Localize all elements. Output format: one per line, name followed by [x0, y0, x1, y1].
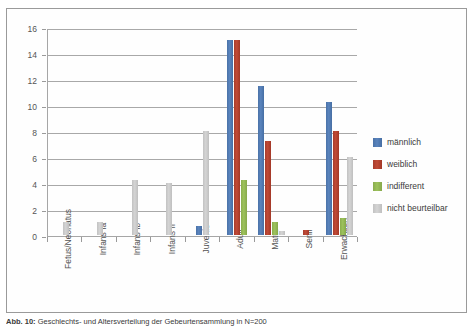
y-axis-tick-mark [42, 81, 46, 82]
bar[interactable] [203, 131, 209, 235]
x-axis-label-cell: Erwachsen [323, 237, 357, 307]
chart-legend: männlichweiblichindifferentnicht beurtei… [373, 131, 465, 219]
x-axis-labels: Fetus/NeonatusInfans IaInfans IbInfans I… [47, 237, 357, 307]
bar[interactable] [258, 86, 264, 236]
plot-area [47, 29, 357, 237]
legend-swatch-icon [373, 138, 382, 147]
y-axis-tick-label: 0 [15, 233, 37, 242]
y-axis-tick-mark [42, 55, 46, 56]
legend-swatch-icon [373, 182, 382, 191]
bar-group [289, 29, 323, 235]
legend-swatch-icon [373, 160, 382, 169]
x-axis-label-cell: Infans Ib [116, 237, 150, 307]
y-axis-tick-label: 4 [15, 181, 37, 190]
bar-group [220, 29, 254, 235]
bar[interactable] [234, 40, 240, 235]
y-axis-tick-mark [42, 29, 46, 30]
legend-label: männlich [387, 137, 421, 147]
y-axis-tick-mark [42, 185, 46, 186]
x-axis-label-cell: Adult [219, 237, 253, 307]
figure-container: 0246810121416 Fetus/NeonatusInfans IaInf… [0, 0, 474, 330]
x-axis-label-cell: Infans II [150, 237, 184, 307]
y-axis-tick-label: 12 [15, 77, 37, 86]
bar-group [323, 29, 357, 235]
bar-group [83, 29, 117, 235]
y-axis-tick-mark [42, 107, 46, 108]
y-axis-tick-mark [42, 211, 46, 212]
x-axis-tick-label: Fetus/Neonatus [64, 209, 73, 269]
bar-group [117, 29, 151, 235]
bar[interactable] [132, 180, 138, 235]
y-axis-tick-mark [42, 237, 46, 238]
bar-group [152, 29, 186, 235]
y-axis-tick-label: 8 [15, 129, 37, 138]
bar[interactable] [347, 157, 353, 235]
legend-label: weiblich [387, 159, 417, 169]
bar[interactable] [279, 231, 285, 235]
legend-item[interactable]: weiblich [373, 153, 465, 175]
x-axis-label-cell: Juvenis [185, 237, 219, 307]
bar-group [254, 29, 288, 235]
legend-label: nicht beurteilbar [387, 203, 447, 213]
bar[interactable] [272, 222, 278, 235]
legend-swatch-icon [373, 204, 382, 213]
bar-group [186, 29, 220, 235]
legend-item[interactable]: indifferent [373, 175, 465, 197]
y-axis-tick-mark [42, 133, 46, 134]
y-axis-tick-label: 2 [15, 207, 37, 216]
bar[interactable] [340, 218, 346, 235]
bar[interactable] [241, 180, 247, 235]
bar[interactable] [265, 141, 271, 235]
bar[interactable] [97, 222, 103, 235]
y-axis-tick-label: 6 [15, 155, 37, 164]
bar[interactable] [196, 226, 202, 235]
bar[interactable] [333, 131, 339, 235]
x-axis-label-cell: Infans Ia [81, 237, 115, 307]
figure-number: Abb. 10: [6, 318, 36, 326]
x-axis-label-cell: Fetus/Neonatus [47, 237, 81, 307]
bar[interactable] [303, 230, 309, 235]
bar-groups [49, 29, 357, 235]
legend-item[interactable]: männlich [373, 131, 465, 153]
legend-label: indifferent [387, 181, 424, 191]
x-axis-label-cell: Matur [254, 237, 288, 307]
x-axis-label-cell: Senil [288, 237, 322, 307]
bar-group [49, 29, 83, 235]
x-axis-tick-mark [357, 237, 358, 242]
plot-wrapper [47, 29, 357, 237]
bar[interactable] [227, 40, 233, 235]
y-axis-tick-label: 10 [15, 103, 37, 112]
bar[interactable] [166, 183, 172, 235]
bar[interactable] [63, 222, 69, 235]
y-axis-tick-mark [42, 159, 46, 160]
figure-caption: Abb. 10: Geschlechts- und Altersverteilu… [6, 318, 468, 327]
bar[interactable] [326, 102, 332, 235]
chart-frame: 0246810121416 Fetus/NeonatusInfans IaInf… [6, 8, 467, 313]
legend-item[interactable]: nicht beurteilbar [373, 197, 465, 219]
figure-caption-text: Geschlechts- und Altersverteilung der Ge… [38, 318, 267, 326]
y-axis-tick-label: 16 [15, 25, 37, 34]
y-axis-tick-label: 14 [15, 51, 37, 60]
